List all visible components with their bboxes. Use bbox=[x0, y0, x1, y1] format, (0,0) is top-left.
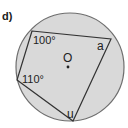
angle-label-top-left: 100° bbox=[33, 34, 56, 46]
cyclic-quadrilateral-diagram: d) O 100° 110° a u bbox=[0, 0, 128, 128]
circle bbox=[16, 13, 124, 121]
center-point bbox=[67, 66, 70, 69]
angle-label-right: a bbox=[97, 39, 104, 53]
diagram-canvas: d) O 100° 110° a u bbox=[0, 0, 128, 128]
part-label: d) bbox=[2, 10, 13, 22]
angle-label-bottom: u bbox=[67, 107, 74, 121]
center-label: O bbox=[63, 51, 72, 65]
angle-label-left: 110° bbox=[22, 73, 44, 85]
